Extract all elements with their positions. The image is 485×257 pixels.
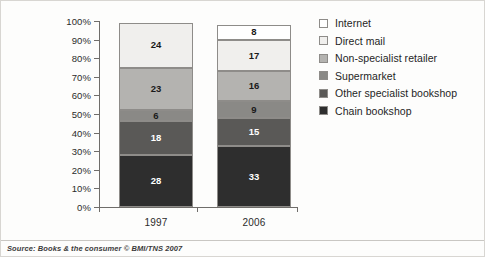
bar-segment-value: 33 [249, 172, 260, 182]
bar-segment[interactable]: 16 [217, 71, 291, 101]
legend-swatch-icon [319, 106, 328, 115]
bar-1997[interactable]: 281862324 [119, 21, 193, 207]
y-tick-label: 0% [77, 202, 91, 213]
bar-segment[interactable]: 28 [119, 155, 193, 207]
y-tick [94, 133, 99, 134]
bar-segment-value: 24 [151, 40, 162, 50]
y-tick-label: 50% [72, 109, 91, 120]
x-tick [297, 207, 298, 212]
legend-item-3[interactable]: Supermarket [319, 70, 479, 82]
x-axis [99, 207, 298, 208]
bar-segment[interactable]: 23 [119, 68, 193, 111]
plot-area: 0%10%20%30%40%50%60%70%80%90%100% 281862… [99, 21, 291, 207]
legend-item-label: Non-specialist retailer [335, 52, 437, 64]
legend-swatch-icon [319, 19, 328, 28]
bar-segment-value: 16 [249, 81, 260, 91]
legend-item-2[interactable]: Non-specialist retailer [319, 52, 479, 64]
y-axis [99, 21, 100, 207]
legend-item-label: Internet [335, 17, 371, 29]
bar-segment-value: 17 [249, 51, 260, 61]
y-tick [94, 151, 99, 152]
source-note: Source: Books & the consumer © BMI/TNS 2… [7, 244, 182, 253]
bar-segment[interactable]: 15 [217, 118, 291, 146]
bar-segment-value: 28 [151, 176, 162, 186]
x-tick-label: 1997 [144, 217, 167, 228]
y-tick-label: 70% [72, 71, 91, 82]
bar-segment[interactable]: 8 [217, 25, 291, 40]
bar-segment[interactable]: 33 [217, 146, 291, 207]
x-tick [197, 207, 198, 212]
y-tick-label: 20% [72, 164, 91, 175]
bar-segment[interactable]: 17 [217, 40, 291, 72]
legend-swatch-icon [319, 54, 328, 63]
legend-item-label: Direct mail [335, 35, 385, 47]
y-tick [94, 77, 99, 78]
y-tick-label: 30% [72, 146, 91, 157]
bar-segment[interactable]: 24 [119, 23, 193, 68]
y-tick-label: 60% [72, 90, 91, 101]
y-tick [94, 58, 99, 59]
bar-segment[interactable]: 6 [119, 110, 193, 121]
legend-item-label: Chain bookshop [335, 105, 412, 117]
legend-item-4[interactable]: Other specialist bookshop [319, 87, 479, 99]
legend-swatch-icon [319, 36, 328, 45]
bar-segment-value: 8 [251, 27, 256, 37]
y-tick [94, 170, 99, 171]
legend-item-label: Other specialist bookshop [335, 87, 457, 99]
y-tick [94, 188, 99, 189]
legend-item-label: Supermarket [335, 70, 396, 82]
legend-item-1[interactable]: Direct mail [319, 35, 479, 47]
bar-segment[interactable]: 9 [217, 101, 291, 118]
bar-2006[interactable]: 3315916178 [217, 21, 291, 207]
bar-segment-value: 6 [153, 111, 158, 121]
bar-segment-value: 9 [251, 105, 256, 115]
footer-divider [1, 240, 484, 241]
chart-figure: 0%10%20%30%40%50%60%70%80%90%100% 281862… [0, 0, 485, 257]
x-tick-label: 2006 [242, 217, 265, 228]
legend-swatch-icon [319, 89, 328, 98]
legend-item-5[interactable]: Chain bookshop [319, 105, 479, 117]
y-tick [94, 40, 99, 41]
legend-swatch-icon [319, 71, 328, 80]
y-tick [94, 95, 99, 96]
bar-segment-value: 15 [249, 127, 260, 137]
y-tick-label: 80% [72, 53, 91, 64]
bar-segment[interactable]: 18 [119, 121, 193, 154]
legend: InternetDirect mailNon-specialist retail… [319, 17, 479, 123]
y-tick-label: 100% [66, 16, 91, 27]
y-tick-label: 40% [72, 127, 91, 138]
bar-segment-value: 18 [151, 133, 162, 143]
y-tick-label: 90% [72, 34, 91, 45]
bar-segment-value: 23 [151, 84, 162, 94]
legend-item-0[interactable]: Internet [319, 17, 479, 29]
x-tick [99, 207, 100, 212]
y-tick [94, 21, 99, 22]
y-tick-label: 10% [72, 183, 91, 194]
y-tick [94, 114, 99, 115]
